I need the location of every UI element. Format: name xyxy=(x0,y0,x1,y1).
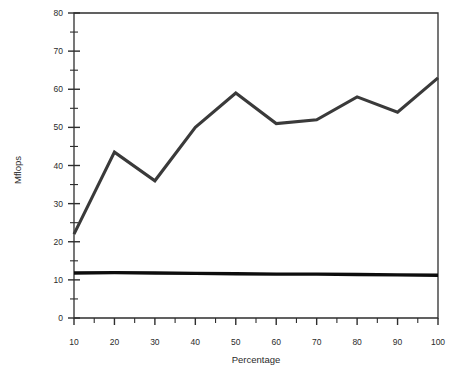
y-axis-title: Mflops xyxy=(12,156,23,184)
y-tick-label: 20 xyxy=(54,237,64,247)
x-tick-label: 70 xyxy=(312,337,322,347)
y-tick-label: 60 xyxy=(54,84,64,94)
series-lower-flat-line xyxy=(74,273,438,276)
x-tick-label: 40 xyxy=(191,337,201,347)
y-tick-label: 70 xyxy=(54,46,64,56)
y-tick-label: 50 xyxy=(54,122,64,132)
y-tick-label: 10 xyxy=(54,275,64,285)
x-tick-label: 10 xyxy=(69,337,79,347)
x-tick-label: 100 xyxy=(431,337,445,347)
y-tick-label: 0 xyxy=(58,313,63,323)
x-axis-ticks xyxy=(74,318,438,325)
x-tick-label: 30 xyxy=(150,337,160,347)
y-tick-label: 80 xyxy=(54,8,64,18)
y-tick-label: 40 xyxy=(54,161,64,171)
x-tick-label: 80 xyxy=(352,337,362,347)
y-axis-tick-labels: 01020304050607080 xyxy=(54,8,64,323)
x-tick-label: 20 xyxy=(110,337,120,347)
line-chart: 01020304050607080 102030405060708090100 … xyxy=(0,0,454,381)
data-series-group xyxy=(74,78,438,275)
x-tick-label: 60 xyxy=(271,337,281,347)
series-upper-curve xyxy=(74,78,438,234)
x-tick-label: 50 xyxy=(231,337,241,347)
chart-figure: 01020304050607080 102030405060708090100 … xyxy=(0,0,454,381)
x-axis-title: Percentage xyxy=(232,354,281,365)
x-tick-label: 90 xyxy=(393,337,403,347)
x-axis-tick-labels: 102030405060708090100 xyxy=(69,337,445,347)
y-tick-label: 30 xyxy=(54,199,64,209)
